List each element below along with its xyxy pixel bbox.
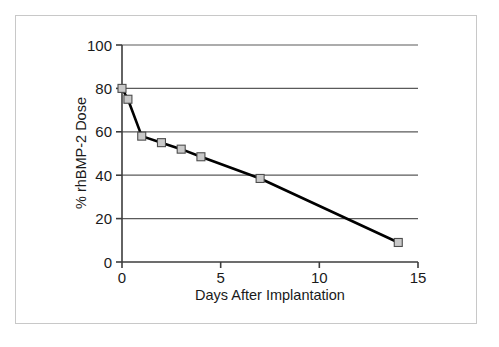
data-series-line — [122, 88, 398, 242]
figure-canvas: 020406080100 051015 Days After Implantat… — [0, 0, 499, 347]
x-tick-label-15: 15 — [410, 269, 427, 286]
y-axis-tick-labels: 020406080100 — [87, 37, 112, 271]
data-point-marker — [256, 174, 264, 182]
x-tick-label-0: 0 — [118, 269, 126, 286]
data-point-marker — [157, 139, 165, 147]
data-point-marker — [394, 238, 402, 246]
data-point-marker — [138, 132, 146, 140]
line-chart: 020406080100 051015 Days After Implantat… — [0, 0, 499, 347]
data-point-marker — [118, 84, 126, 92]
data-point-marker — [177, 145, 185, 153]
y-tick-label-0: 0 — [104, 254, 112, 271]
data-point-marker — [197, 153, 205, 161]
x-tick-label-10: 10 — [311, 269, 328, 286]
x-axis-title: Days After Implantation — [195, 287, 345, 303]
gridlines-group — [122, 45, 418, 219]
y-tick-label-40: 40 — [95, 167, 112, 184]
y-axis-title: % rhBMP-2 Dose — [73, 97, 89, 209]
x-tick-label-5: 5 — [216, 269, 224, 286]
y-tick-label-100: 100 — [87, 37, 112, 54]
data-point-markers-group — [118, 84, 402, 246]
y-tick-label-20: 20 — [95, 210, 112, 227]
x-axis-tick-labels: 051015 — [118, 269, 427, 286]
x-axis-ticks-group — [122, 262, 418, 268]
y-tick-label-80: 80 — [95, 80, 112, 97]
data-point-marker — [124, 95, 132, 103]
y-axis-ticks-group — [116, 45, 122, 262]
y-tick-label-60: 60 — [95, 123, 112, 140]
